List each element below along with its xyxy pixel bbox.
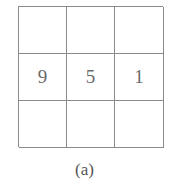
grid-cell-r2c1	[67, 101, 115, 148]
grid-cell-r0c0	[19, 7, 67, 54]
grid-cell-r0c1	[67, 7, 115, 54]
grid-cell-r1c1: 5	[67, 54, 115, 101]
grid-cell-r1c0: 9	[19, 54, 67, 101]
figure-caption: (a)	[0, 160, 169, 180]
grid-cell-r1c2: 1	[115, 54, 164, 101]
number-grid: 9 5 1	[18, 6, 163, 147]
grid-cell-r2c0	[19, 101, 67, 148]
grid-cell-r2c2	[115, 101, 164, 148]
grid-cell-r0c2	[115, 7, 164, 54]
